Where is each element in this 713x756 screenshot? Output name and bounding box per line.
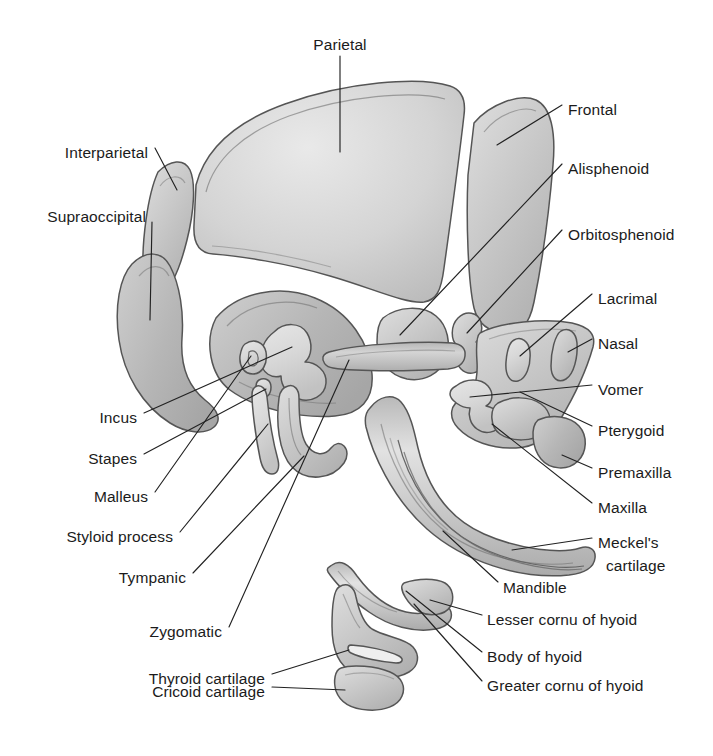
label-pterygoid: Pterygoid bbox=[598, 421, 664, 440]
label-cricoid-cartilage: Cricoid cartilage bbox=[152, 682, 265, 701]
structure-frontal bbox=[467, 98, 554, 333]
structure-parietal bbox=[194, 81, 465, 302]
structure-premaxilla bbox=[533, 417, 585, 468]
structure-supraoccipital bbox=[117, 254, 218, 432]
label-maxilla: Maxilla bbox=[598, 498, 647, 517]
label-tympanic: Tympanic bbox=[119, 568, 186, 587]
label-lacrimal: Lacrimal bbox=[598, 289, 657, 308]
leader-tympanic bbox=[193, 456, 304, 573]
leader-styloid bbox=[180, 424, 268, 532]
label-stapes: Stapes bbox=[88, 449, 137, 468]
label-orbitosphenoid: Orbitosphenoid bbox=[568, 225, 675, 244]
label-vomer: Vomer bbox=[598, 380, 643, 399]
diagram-canvas: .bone{stroke:#555;stroke-width:1.5;strok… bbox=[0, 0, 713, 756]
label-supraoccipital: Supraoccipital bbox=[47, 207, 146, 226]
label-body-of-hyoid: Body of hyoid bbox=[487, 647, 582, 666]
label-styloid-process: Styloid process bbox=[66, 527, 173, 546]
label-meckels-cartilage-1: Meckel's bbox=[598, 533, 659, 552]
label-alisphenoid: Alisphenoid bbox=[568, 159, 649, 178]
label-malleus: Malleus bbox=[94, 487, 148, 506]
label-incus: Incus bbox=[99, 408, 137, 427]
label-meckels-cartilage-2: cartilage bbox=[606, 556, 666, 575]
label-lesser-cornu: Lesser cornu of hyoid bbox=[487, 610, 637, 629]
label-mandible: Mandible bbox=[503, 578, 567, 597]
label-frontal: Frontal bbox=[568, 100, 617, 119]
label-interparietal: Interparietal bbox=[65, 143, 148, 162]
leader-cricoid bbox=[272, 687, 345, 690]
label-zygomatic: Zygomatic bbox=[150, 622, 222, 641]
label-premaxilla: Premaxilla bbox=[598, 463, 671, 482]
label-parietal: Parietal bbox=[220, 35, 460, 54]
label-greater-cornu: Greater cornu of hyoid bbox=[487, 676, 643, 695]
label-nasal: Nasal bbox=[598, 334, 638, 353]
